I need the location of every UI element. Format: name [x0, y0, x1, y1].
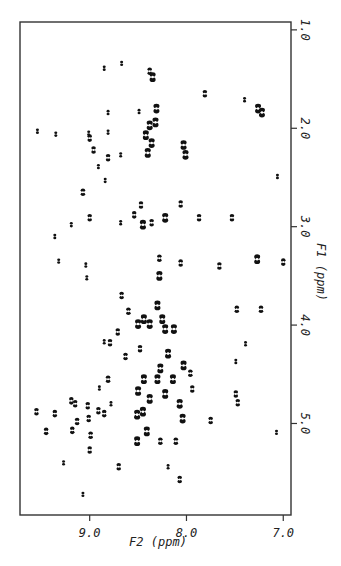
- peak: [116, 328, 121, 336]
- plot-frame: [20, 22, 291, 515]
- x-tick-label: 7.0: [272, 526, 294, 540]
- peak: [119, 292, 124, 300]
- peak: [188, 370, 193, 378]
- peak: [208, 417, 213, 425]
- peak: [140, 220, 146, 230]
- peak: [145, 148, 151, 158]
- peak: [70, 427, 75, 435]
- peak: [203, 90, 208, 98]
- peak: [177, 399, 183, 409]
- x-tick-label: 9.0: [79, 526, 101, 540]
- peak: [143, 130, 149, 140]
- peak: [147, 319, 153, 329]
- peak: [120, 61, 123, 66]
- peak: [178, 259, 183, 267]
- peak: [36, 129, 39, 134]
- peak: [181, 361, 187, 371]
- peak: [103, 339, 106, 344]
- peak: [70, 222, 73, 227]
- peak: [103, 66, 106, 71]
- peak: [235, 306, 240, 314]
- peak: [86, 415, 91, 423]
- peak: [85, 275, 88, 280]
- peak: [141, 314, 147, 324]
- peak: [281, 258, 286, 266]
- peak: [102, 410, 107, 418]
- peak: [156, 271, 162, 281]
- peak: [254, 254, 260, 264]
- peak: [81, 492, 84, 497]
- peak: [54, 131, 57, 136]
- peak: [141, 374, 147, 384]
- peak: [123, 353, 128, 361]
- peaks-layer: [34, 61, 285, 497]
- peak: [98, 385, 101, 390]
- peak: [162, 389, 168, 399]
- peak: [234, 359, 237, 364]
- peak: [62, 460, 65, 465]
- peak: [87, 446, 92, 454]
- peak: [149, 219, 154, 227]
- peak: [135, 386, 141, 396]
- peak: [178, 200, 183, 208]
- peak: [132, 211, 137, 219]
- y-tick-label: 2.0: [298, 117, 312, 139]
- peak: [236, 399, 241, 407]
- peak: [57, 258, 60, 263]
- nmr-chart: 9.08.07.0 1.02.03.04.05.0 F2 (ppm) F1 (p…: [0, 0, 341, 566]
- peak: [167, 464, 170, 469]
- peak: [96, 407, 101, 415]
- peak: [170, 374, 176, 384]
- peak: [53, 410, 58, 418]
- peak: [174, 437, 179, 445]
- peak: [197, 214, 202, 222]
- peak: [126, 308, 131, 316]
- peak: [119, 220, 122, 225]
- peak: [162, 324, 168, 334]
- x-axis-title: F2 (ppm): [129, 535, 187, 549]
- peak: [157, 364, 163, 374]
- peak: [275, 430, 278, 435]
- peak: [109, 401, 112, 406]
- peak: [162, 213, 168, 223]
- peak: [69, 397, 74, 405]
- peak: [73, 400, 78, 408]
- y-axis-ticks: 1.02.03.04.05.0: [291, 19, 312, 434]
- peak: [75, 418, 80, 426]
- peak: [87, 214, 92, 222]
- peak: [153, 104, 159, 114]
- y-tick-label: 3.0: [298, 215, 312, 238]
- peak: [87, 134, 92, 142]
- peak: [44, 428, 49, 436]
- peak: [81, 188, 86, 196]
- peak: [147, 120, 153, 130]
- peak: [86, 402, 91, 410]
- peak: [177, 476, 182, 484]
- peak: [116, 463, 121, 471]
- peak: [149, 138, 155, 148]
- y-axis-title: F1 (ppm): [314, 243, 328, 301]
- peak: [150, 72, 156, 82]
- peak: [107, 110, 110, 115]
- peak: [138, 345, 143, 353]
- peak: [157, 254, 162, 262]
- peak: [106, 375, 111, 383]
- peak: [139, 201, 144, 209]
- peak: [106, 154, 111, 162]
- y-tick-label: 1.0: [298, 19, 312, 41]
- peak: [154, 374, 160, 384]
- peak: [180, 414, 186, 424]
- peak: [190, 385, 195, 393]
- peak: [144, 426, 150, 436]
- peak: [171, 324, 177, 334]
- peak: [97, 164, 100, 169]
- peak: [181, 140, 187, 150]
- peak: [135, 319, 141, 329]
- peak: [34, 408, 39, 416]
- peak: [88, 432, 93, 440]
- y-tick-label: 5.0: [298, 413, 312, 435]
- peak: [244, 341, 247, 346]
- peak: [276, 174, 279, 179]
- peak: [243, 97, 246, 102]
- peak: [147, 394, 153, 404]
